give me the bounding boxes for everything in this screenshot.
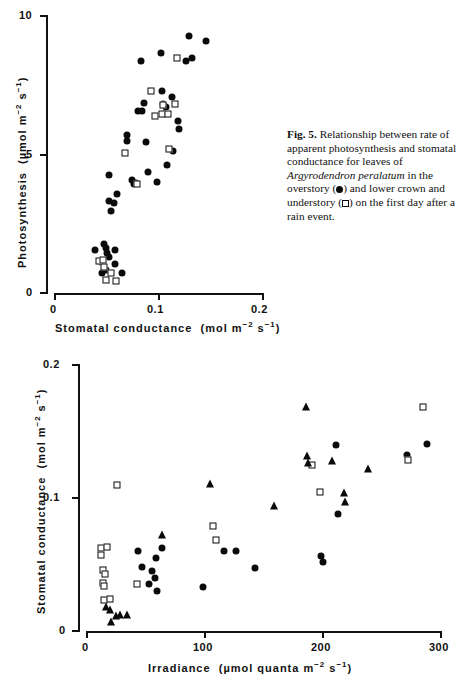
top-chart-ytick-10 — [40, 15, 47, 17]
data-point-understory — [147, 88, 154, 95]
data-point-overstory — [153, 179, 160, 186]
data-point-open-squares — [101, 570, 108, 577]
bottom-chart-xtick-100 — [204, 631, 206, 638]
top-chart-xtick-label-0: 0 — [50, 303, 57, 315]
data-point-filled-triangles — [340, 489, 348, 497]
data-point-overstory — [138, 57, 145, 64]
data-point-filled-circles — [135, 547, 142, 554]
data-point-open-squares — [113, 482, 120, 489]
data-point-filled-circles — [252, 565, 259, 572]
data-point-open-squares — [104, 543, 111, 550]
top-chart-ytick-label-10: 10 — [19, 9, 32, 21]
bottom-chart-y-axis-title: Stomatal conductance (mol m−2 s−1) — [35, 389, 47, 614]
data-point-filled-circles — [335, 510, 342, 517]
data-point-understory — [113, 278, 120, 285]
data-point-overstory — [141, 99, 148, 106]
data-point-overstory — [143, 139, 150, 146]
data-point-overstory — [105, 254, 112, 261]
data-point-filled-circles — [151, 574, 158, 581]
data-point-open-squares — [209, 522, 216, 529]
top-chart-xtick-0.2 — [262, 293, 264, 300]
top-chart-ytick-5 — [40, 154, 47, 156]
data-point-understory — [102, 276, 109, 283]
bottom-chart-ytick-label-0: 0 — [59, 624, 66, 636]
bottom-chart-xtick-200 — [322, 631, 324, 638]
bottom-chart-ytick-0.1 — [72, 497, 79, 499]
data-point-filled-circles — [233, 547, 240, 554]
data-point-filled-circles — [158, 545, 165, 552]
data-point-overstory — [111, 200, 118, 207]
data-point-overstory — [119, 269, 126, 276]
data-point-understory — [121, 149, 128, 156]
data-point-filled-circles — [154, 587, 161, 594]
bottom-chart-x-axis — [86, 631, 441, 633]
data-point-overstory — [139, 107, 146, 114]
bottom-chart-x-axis-name: Irradiance — [148, 662, 211, 674]
data-point-understory — [151, 113, 158, 120]
data-point-filled-triangles — [158, 530, 166, 538]
data-point-open-squares — [420, 403, 427, 410]
top-chart-x-axis-title: Stomatal conductance (mol m−2 s−1) — [55, 322, 280, 334]
data-point-overstory — [159, 88, 166, 95]
data-point-understory — [171, 100, 178, 107]
data-point-overstory — [123, 131, 130, 138]
bottom-chart-xtick-label-200: 200 — [311, 641, 331, 653]
data-point-understory — [166, 145, 173, 152]
data-point-filled-circles — [332, 442, 339, 449]
data-point-open-squares — [317, 489, 324, 496]
data-point-filled-triangles — [123, 611, 131, 619]
figure-caption-species: Argyrodendron peralatum — [287, 169, 405, 181]
data-point-overstory — [203, 38, 210, 45]
data-point-filled-circles — [423, 441, 430, 448]
data-point-overstory — [107, 207, 114, 214]
top-chart-xtick-0.1 — [158, 293, 160, 300]
top-chart-ytick-label-0: 0 — [26, 286, 33, 298]
top-chart-x-axis-name: Stomatal conductance — [55, 322, 192, 334]
bottom-chart-y-axis-name: Stomatal conductance — [35, 477, 47, 614]
data-point-understory — [160, 102, 167, 109]
data-point-open-squares — [98, 551, 105, 558]
data-point-overstory — [105, 171, 112, 178]
top-chart-plot-area — [54, 15, 263, 293]
data-point-filled-triangles — [341, 497, 349, 505]
data-point-filled-circles — [221, 547, 228, 554]
data-point-open-squares — [133, 581, 140, 588]
data-point-overstory — [175, 125, 182, 132]
bottom-chart-x-axis-title: Irradiance (µmol quanta m−2 s−1) — [148, 662, 352, 674]
top-chart-y-axis-units: (µmol m−2 s−1) — [16, 77, 28, 164]
data-point-open-squares — [404, 457, 411, 464]
bottom-chart-xtick-300 — [440, 631, 442, 638]
figure-caption: Fig. 5. Relationship between rate of app… — [287, 128, 471, 223]
data-point-understory — [107, 269, 114, 276]
bottom-chart-x-axis-units: (µmol quanta m−2 s−1) — [219, 662, 352, 674]
data-point-overstory — [164, 161, 171, 168]
data-point-filled-triangles — [328, 457, 336, 465]
bottom-chart-ytick-0 — [72, 630, 79, 632]
data-point-overstory — [114, 191, 121, 198]
bottom-chart-xtick-label-0: 0 — [82, 641, 89, 653]
data-point-overstory — [168, 94, 175, 101]
figure-caption-label: Fig. 5. — [287, 128, 317, 140]
data-point-overstory — [112, 260, 119, 267]
data-point-overstory — [144, 169, 151, 176]
data-point-overstory — [92, 246, 99, 253]
data-point-overstory — [112, 246, 119, 253]
data-point-overstory — [158, 49, 165, 56]
data-point-filled-circles — [138, 563, 145, 570]
data-point-filled-triangles — [270, 501, 278, 509]
data-point-understory — [134, 181, 141, 188]
data-point-open-squares — [106, 595, 113, 602]
data-point-filled-triangles — [364, 465, 372, 473]
data-point-filled-circles — [152, 554, 159, 561]
data-point-overstory — [174, 117, 181, 124]
top-chart-xtick-0 — [54, 293, 56, 300]
bottom-chart-xtick-0 — [86, 631, 88, 638]
chart-conductance-vs-irradiance: 0.2 0.1 0 0 100 200 300 Stomatal conduct… — [0, 350, 475, 683]
bottom-chart-plot-area — [86, 364, 441, 631]
data-point-filled-circles — [319, 558, 326, 565]
top-chart-y-axis-title: Photosynthesis (µmol m−2 s−1) — [16, 77, 28, 268]
data-point-overstory — [189, 55, 196, 62]
data-point-filled-triangles — [206, 480, 214, 488]
bottom-chart-xtick-label-300: 300 — [429, 641, 449, 653]
data-point-understory — [173, 55, 180, 62]
